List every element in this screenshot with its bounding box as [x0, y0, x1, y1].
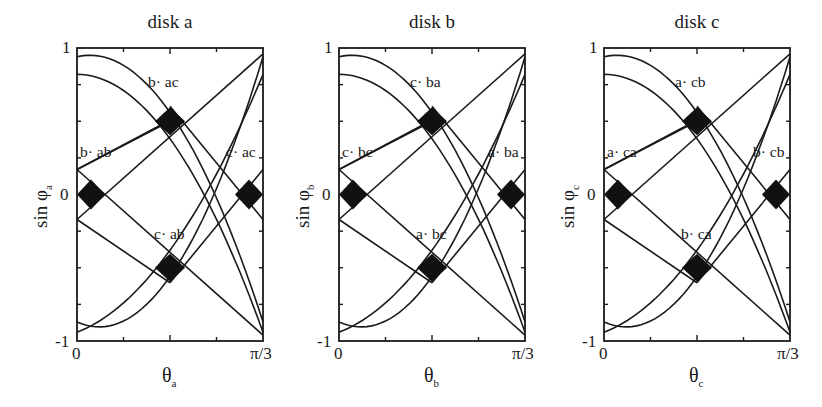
annotation-bottom: c· ab [154, 225, 185, 243]
y-tick-mid: 0 [322, 185, 331, 205]
y-tick-bottom: -1 [582, 332, 596, 352]
x-tick-left: 0 [334, 344, 343, 364]
y-tick-mid: 0 [60, 185, 69, 205]
y-tick-top: 1 [324, 38, 333, 58]
y-tick-bottom: -1 [55, 332, 69, 352]
annotation-top: c· ba [410, 73, 441, 91]
annotation-right: b· cb [753, 143, 784, 161]
annotation-top: b· ac [148, 73, 179, 91]
y-tick-mid: 0 [587, 185, 596, 205]
x-tick-left: 0 [599, 344, 608, 364]
y-tick-bottom: -1 [317, 332, 331, 352]
annotation-top: a· cb [675, 73, 706, 91]
x-axis-label: θc [689, 364, 703, 389]
annotation-left: b· ab [80, 143, 111, 161]
x-tick-right: π/3 [777, 344, 799, 364]
x-tick-left: 0 [72, 344, 81, 364]
annotation-bottom: a· bc [416, 225, 447, 243]
y-axis-label: sin φc [557, 185, 581, 228]
panel-disk-b: disk b 1 0 -1 0 π/3 sin φb θb c· ba c· b… [262, 0, 532, 407]
annotation-bottom: b· ca [681, 225, 712, 243]
annotation-left: c· bc [342, 143, 373, 161]
panel-disk-a: disk a 1 0 -1 0 π/3 sin φa θa b· ac b· a… [0, 0, 270, 407]
annotation-right: c· ac [226, 143, 256, 161]
y-axis-label: sin φb [292, 185, 316, 228]
annotation-left: a· ca [607, 143, 637, 161]
y-axis-label: sin φa [30, 185, 54, 228]
y-tick-top: 1 [589, 38, 598, 58]
x-axis-label: θb [424, 364, 439, 389]
x-axis-label: θa [162, 364, 176, 389]
annotation-right: a· ba [488, 143, 519, 161]
y-tick-top: 1 [62, 38, 71, 58]
panel-disk-c: disk c 1 0 -1 0 π/3 sin φc θc a· cb a· c… [527, 0, 797, 407]
